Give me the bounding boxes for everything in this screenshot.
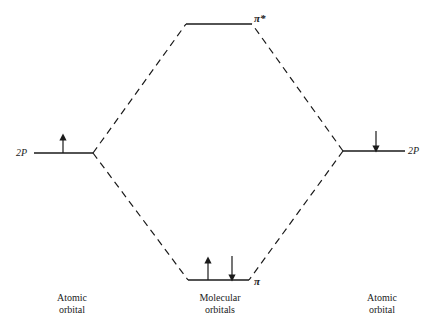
molecular-orbitals-caption: Molecular orbitals xyxy=(186,292,254,316)
caption-line: orbital xyxy=(354,304,410,316)
caption-line: Molecular xyxy=(186,292,254,304)
left-atomic-orbital-caption: Atomic orbital xyxy=(44,292,100,316)
pi-star-label: π* xyxy=(254,12,266,24)
caption-line: Atomic xyxy=(44,292,100,304)
correlation-line-left-antibonding xyxy=(93,24,186,153)
right-atomic-orbital-caption: Atomic orbital xyxy=(354,292,410,316)
correlation-line-left-bonding xyxy=(93,153,188,280)
pi-label: π xyxy=(254,275,260,287)
mo-diagram-canvas xyxy=(0,0,436,331)
correlation-line-right-bonding xyxy=(249,151,343,280)
caption-line: orbital xyxy=(44,304,100,316)
correlation-line-right-antibonding xyxy=(252,24,343,151)
caption-line: Atomic xyxy=(354,292,410,304)
caption-line: orbitals xyxy=(186,304,254,316)
left-2p-label: 2P xyxy=(16,147,27,158)
right-2p-label: 2P xyxy=(408,145,419,156)
